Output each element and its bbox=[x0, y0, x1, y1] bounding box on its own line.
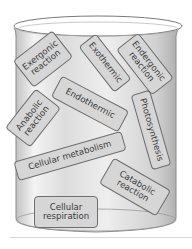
divider bbox=[10, 237, 192, 238]
beaker-diagram: Exergonic reaction Exothermic Endergonic… bbox=[0, 0, 192, 249]
card-cellular-respiration: Cellular respiration bbox=[34, 196, 98, 228]
